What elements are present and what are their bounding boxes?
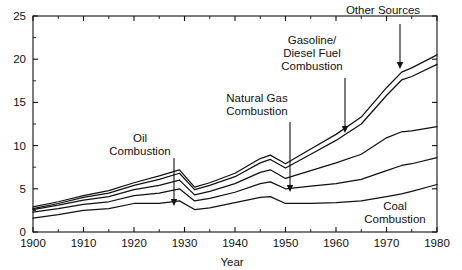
annotation-label: Combustion — [281, 60, 342, 72]
annotation-label: Oil — [133, 132, 147, 144]
x-tick-label: 1950 — [273, 237, 299, 249]
x-axis-title: Year — [220, 256, 243, 268]
annotation-label: Combustion — [364, 213, 425, 225]
annotation-label: Coal — [383, 200, 407, 212]
x-tick-label: 1960 — [323, 237, 349, 249]
y-tick-label: 20 — [13, 53, 26, 65]
x-tick-label: 1970 — [374, 237, 400, 249]
x-tick-label: 1910 — [71, 237, 97, 249]
annotation-label: Natural Gas — [226, 92, 288, 104]
y-tick-label: 25 — [13, 10, 26, 22]
x-tick-label: 1930 — [172, 237, 198, 249]
annotation-label: Combustion — [109, 145, 170, 157]
x-tick-label: 1980 — [424, 237, 450, 249]
x-tick-labels: 190019101920193019401950196019701980 — [20, 237, 450, 249]
x-tick-label: 1940 — [222, 237, 248, 249]
x-tick-label: 1900 — [20, 237, 46, 249]
y-tick-label: 15 — [13, 96, 26, 108]
annotation-label: Gasoline/ — [288, 34, 337, 46]
annotation-label: Other Sources — [346, 4, 420, 16]
x-tick-label: 1920 — [121, 237, 147, 249]
chart-container: 0510152025 19001910192019301940195019601… — [0, 0, 462, 270]
y-tick-label: 5 — [20, 183, 26, 195]
y-tick-label: 10 — [13, 140, 26, 152]
annotation-label: Diesel Fuel — [283, 47, 341, 59]
emissions-stacked-area-chart: 0510152025 19001910192019301940195019601… — [0, 0, 462, 270]
annotation-label: Combustion — [226, 105, 287, 117]
